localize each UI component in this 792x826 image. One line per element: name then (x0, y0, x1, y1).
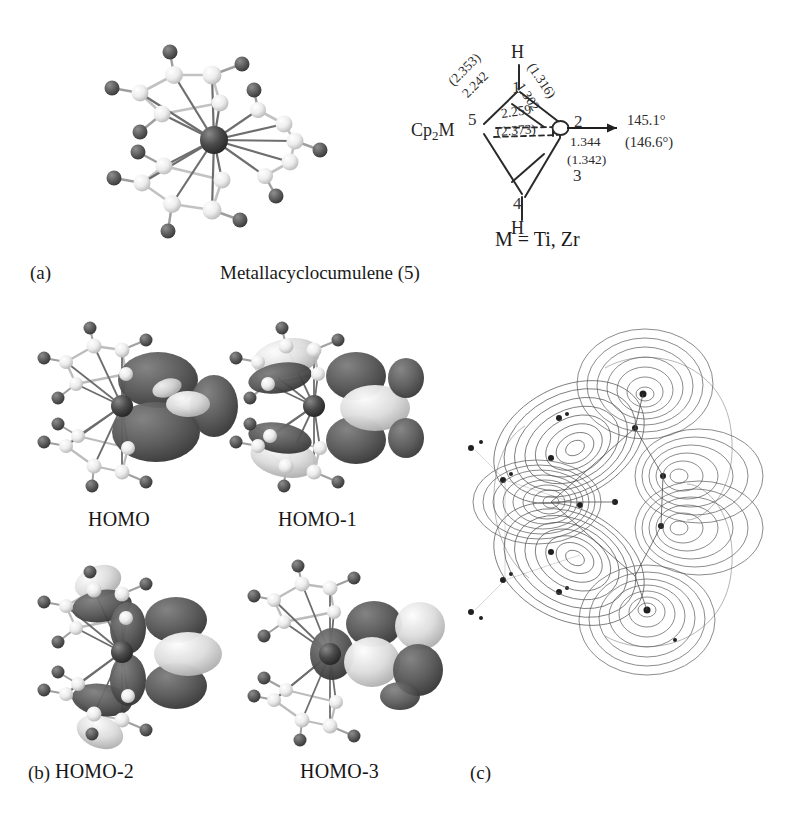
homo-2-label: HOMO-2 (55, 760, 134, 783)
homo-3-isosurface (250, 558, 476, 754)
cp-atoms (230, 322, 345, 493)
skeletal-h-top: H (511, 42, 524, 63)
contour-lines-top-lobe (577, 329, 713, 439)
contour-lines-right-upper-lobe (635, 429, 763, 523)
homo-3-svg (250, 558, 476, 754)
metal-center (303, 395, 325, 417)
skeletal-number-3: 3 (573, 166, 582, 186)
panel-b-letter: (b) (28, 762, 50, 784)
cp-atoms (38, 566, 153, 741)
panel-a-letter: (a) (30, 262, 51, 284)
ball-and-stick-svg (62, 28, 362, 263)
panel-c-contour-map (455, 330, 785, 750)
contour-lines-bottom-lobe (579, 565, 715, 675)
bond-c2c3-paren-value: (1.342) (567, 152, 606, 168)
skeletal-number-4: 4 (513, 194, 522, 214)
homo-2-svg (36, 558, 262, 754)
contour-svg (455, 330, 785, 750)
atom-markers (468, 391, 677, 643)
panel-a-skeletal-diagram: H H 1 2 3 4 5 Cp2M (2.353) 2.242 (1.316)… (424, 42, 754, 242)
metal-definition-label: M = Ti, Zr (495, 228, 580, 251)
homo-1-isosurface (228, 318, 454, 504)
c2-vertex-marker (553, 121, 569, 135)
metal-center (111, 395, 133, 417)
metal-center (111, 641, 133, 663)
cp-text: Cp (411, 120, 432, 140)
skeletal-number-2: 2 (574, 112, 583, 132)
metal-center (319, 643, 341, 665)
metal-text: M (439, 120, 455, 140)
skeletal-metal-label: Cp2M (411, 120, 455, 144)
panel-a-caption: Metallacyclocumulene (5) (220, 262, 420, 284)
panel-c-letter: (c) (470, 762, 491, 784)
bond-c2c3-value: 1.344 (570, 134, 600, 150)
homo-3-label: HOMO-3 (300, 760, 379, 783)
figure-root: H H 1 2 3 4 5 Cp2M (2.353) 2.242 (1.316)… (0, 0, 792, 826)
homo-label: HOMO (88, 508, 150, 531)
bond-m-inner-paren-value: (2.373) (496, 121, 536, 140)
panel-a-structure-model (62, 28, 362, 263)
homo-2-isosurface (36, 558, 262, 754)
skeletal-number-5: 5 (468, 110, 477, 130)
homo-1-label: HOMO-1 (278, 508, 357, 531)
angle-paren-value: (146.6°) (625, 134, 673, 151)
metal-center-atom (200, 126, 228, 154)
homo-1-svg (228, 318, 454, 504)
angle-value: 145.1° (627, 112, 665, 129)
contour-lines-right-lower-lobe (635, 481, 763, 575)
orbital-lobes (246, 332, 424, 483)
